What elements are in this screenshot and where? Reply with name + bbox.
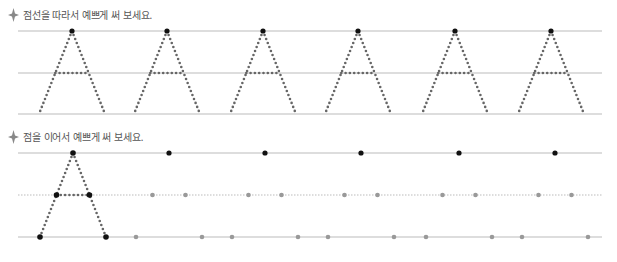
example-point-dot	[103, 234, 109, 240]
apex-guide-dot	[358, 150, 363, 155]
start-point-dot	[355, 28, 360, 33]
crossbar-left-guide-dot	[536, 193, 541, 198]
example-point-dot	[87, 192, 93, 198]
handwriting-practice-sheet	[0, 0, 617, 262]
apex-guide-dot	[552, 150, 557, 155]
crossbar-right-guide-dot	[279, 193, 284, 198]
example-point-dot	[54, 192, 60, 198]
base-left-guide-dot	[326, 235, 331, 240]
apex-guide-dot	[262, 150, 267, 155]
example-point-dot	[37, 234, 43, 240]
start-point-dot	[164, 28, 169, 33]
crossbar-right-guide-dot	[569, 193, 574, 198]
example-point-dot	[70, 150, 76, 156]
base-right-guide-dot	[296, 235, 301, 240]
crossbar-right-guide-dot	[183, 193, 188, 198]
base-left-guide-dot	[230, 235, 235, 240]
crossbar-left-guide-dot	[342, 193, 347, 198]
base-right-guide-dot	[586, 235, 591, 240]
crossbar-right-guide-dot	[473, 193, 478, 198]
start-point-dot	[548, 28, 553, 33]
crossbar-left-guide-dot	[440, 193, 445, 198]
base-left-guide-dot	[424, 235, 429, 240]
base-right-guide-dot	[200, 235, 205, 240]
crossbar-left-guide-dot	[246, 193, 251, 198]
base-right-guide-dot	[392, 235, 397, 240]
start-point-dot	[452, 28, 457, 33]
start-point-dot	[69, 28, 74, 33]
apex-guide-dot	[456, 150, 461, 155]
crossbar-right-guide-dot	[375, 193, 380, 198]
crossbar-left-guide-dot	[150, 193, 155, 198]
base-right-guide-dot	[490, 235, 495, 240]
apex-guide-dot	[166, 150, 171, 155]
start-point-dot	[260, 28, 265, 33]
base-left-guide-dot	[134, 235, 139, 240]
base-left-guide-dot	[520, 235, 525, 240]
